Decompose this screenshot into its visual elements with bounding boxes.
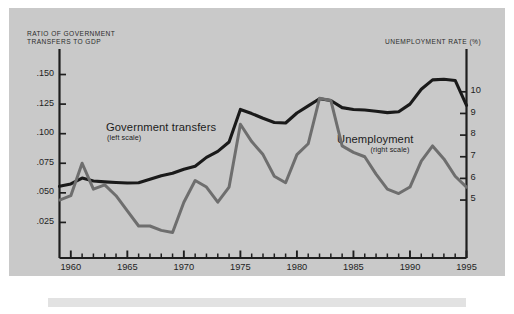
y-tick-label-left: .150 xyxy=(10,68,54,78)
y-tick-label-left: .100 xyxy=(10,127,54,137)
y-tick-label-left: .125 xyxy=(10,98,54,108)
x-tick-label: 1990 xyxy=(386,262,434,272)
x-tick-label: 1960 xyxy=(47,262,95,272)
y-tick-label-right: 9 xyxy=(471,107,476,117)
y-tick-label-right: 7 xyxy=(471,150,476,160)
x-tick-label: 1980 xyxy=(273,262,321,272)
x-tick-label: 1970 xyxy=(160,262,208,272)
y-tick-label-right: 6 xyxy=(471,172,476,182)
figure-container: RATIO OF GOVERNMENT TRANSFERS TO GDP UNE… xyxy=(0,0,514,314)
x-tick-label: 1975 xyxy=(216,262,264,272)
y-tick-label-right: 5 xyxy=(471,193,476,203)
y-tick-label-left: .050 xyxy=(10,186,54,196)
y-tick-label-right: 10 xyxy=(471,85,481,95)
x-tick-label: 1995 xyxy=(443,262,491,272)
y-tick-label-left: .075 xyxy=(10,157,54,167)
x-tick-label: 1965 xyxy=(103,262,151,272)
x-tick-label: 1985 xyxy=(329,262,377,272)
y-tick-label-right: 8 xyxy=(471,128,476,138)
series-group xyxy=(60,79,467,232)
y-tick-label-left: .025 xyxy=(10,216,54,226)
series-line-government-transfers xyxy=(60,79,467,186)
